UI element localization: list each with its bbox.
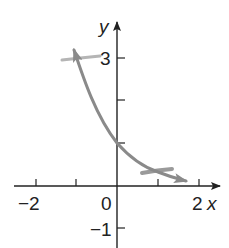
x-tick-label-neg2: −2 [18,193,40,214]
y-tick-label-neg1: −1 [90,219,112,240]
highlight-stroke-left [62,56,100,60]
graph-svg: −2 0 2 x y 3 −1 [0,0,229,248]
x-axis-label: x [206,193,218,214]
curve-exponential-decay [74,50,186,181]
x-tick-label-2: 2 [192,193,203,214]
y-tick-label-3: 3 [100,48,111,69]
graph: −2 0 2 x y 3 −1 [0,0,229,248]
x-tick-label-0: 0 [101,193,112,214]
y-axis-label: y [97,16,110,37]
